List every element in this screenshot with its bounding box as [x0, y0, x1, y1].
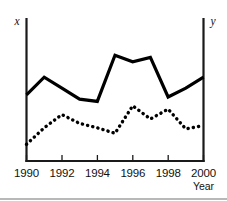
footer-divider [0, 197, 227, 201]
x-tick-label: 1994 [85, 167, 111, 179]
x-tick-labels: 1990 1992 1994 1996 1998 2000 [14, 167, 216, 179]
chart-figure: x y 1990 1992 1994 1996 1998 2000 Year [0, 0, 227, 201]
chart-plot-area: x y 1990 1992 1994 1996 1998 2000 Year [0, 0, 227, 201]
x-tick-label: 1996 [120, 167, 145, 179]
x-axis-caption: Year [193, 180, 215, 192]
x-tick-label: 1998 [156, 167, 181, 179]
series-line-solid [27, 55, 204, 101]
x-tick-label: 1990 [14, 167, 39, 179]
left-axis-label: x [13, 15, 20, 27]
right-axis-label: y [209, 15, 216, 28]
x-tick-label: 1992 [50, 167, 75, 179]
x-tick-label: 2000 [191, 167, 216, 179]
series-line-dotted [27, 106, 204, 145]
